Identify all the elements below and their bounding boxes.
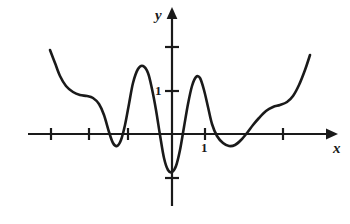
x-axis-arrow-icon — [326, 129, 338, 140]
graph-figure: y x 1 1 — [0, 0, 350, 224]
y-axis-arrow-icon — [167, 7, 178, 19]
y-axis-tick-label-1: 1 — [155, 84, 162, 97]
graph-canvas — [0, 0, 350, 224]
y-axis-label: y — [155, 8, 162, 23]
x-axis-label: x — [333, 141, 341, 156]
axes-group — [28, 7, 338, 206]
function-curve — [50, 50, 310, 172]
x-axis-tick-label-1: 1 — [201, 141, 208, 154]
